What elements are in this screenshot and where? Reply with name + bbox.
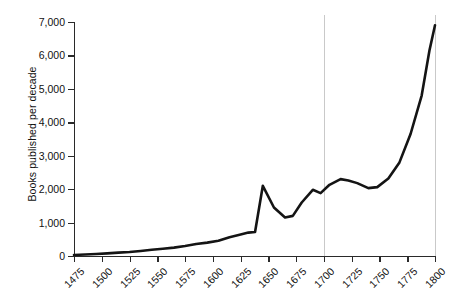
y-tick-label: 4,000: [39, 116, 65, 128]
y-tick-label: 1,000: [39, 217, 65, 229]
y-axis-title: Books published per decade: [26, 24, 38, 244]
x-tick-label: 1475: [61, 265, 86, 290]
x-tick-label: 1775: [395, 265, 420, 290]
x-axis-line: [74, 256, 435, 257]
x-tick-label: 1800: [422, 265, 447, 290]
y-tick-label: 0: [59, 250, 65, 262]
x-tick-label: 1700: [311, 265, 336, 290]
x-tick-label: 1625: [228, 265, 253, 290]
data-series-line: [74, 22, 435, 256]
x-tick-label: 1525: [117, 265, 142, 290]
x-tick: [102, 256, 103, 262]
x-tick: [213, 256, 214, 262]
x-tick: [324, 256, 325, 262]
y-tick-label: 2,000: [39, 183, 65, 195]
x-tick: [268, 256, 269, 262]
plot-area: 01,0002,0003,0004,0005,0006,0007,000 147…: [74, 22, 435, 256]
x-tick: [157, 256, 158, 262]
x-tick: [407, 256, 408, 262]
x-tick: [241, 256, 242, 262]
x-tick-label: 1550: [145, 265, 170, 290]
x-tick-label: 1650: [256, 265, 281, 290]
x-tick: [185, 256, 186, 262]
x-tick-label: 1600: [200, 265, 225, 290]
chart-figure: Books published per decade 01,0002,0003,…: [0, 0, 452, 299]
y-tick-label: 5,000: [39, 83, 65, 95]
x-tick: [130, 256, 131, 262]
x-tick: [296, 256, 297, 262]
y-tick-label: 7,000: [39, 16, 65, 28]
x-tick: [379, 256, 380, 262]
y-tick-label: 3,000: [39, 150, 65, 162]
y-tick-label: 6,000: [39, 49, 65, 61]
x-tick-label: 1675: [284, 265, 309, 290]
x-tick-label: 1725: [339, 265, 364, 290]
x-tick: [352, 256, 353, 262]
gridline-1800: [435, 15, 436, 256]
x-tick-label: 1750: [367, 265, 392, 290]
x-tick-label: 1575: [173, 265, 198, 290]
x-tick-label: 1500: [89, 265, 114, 290]
x-tick: [74, 256, 75, 262]
x-tick: [435, 256, 436, 262]
